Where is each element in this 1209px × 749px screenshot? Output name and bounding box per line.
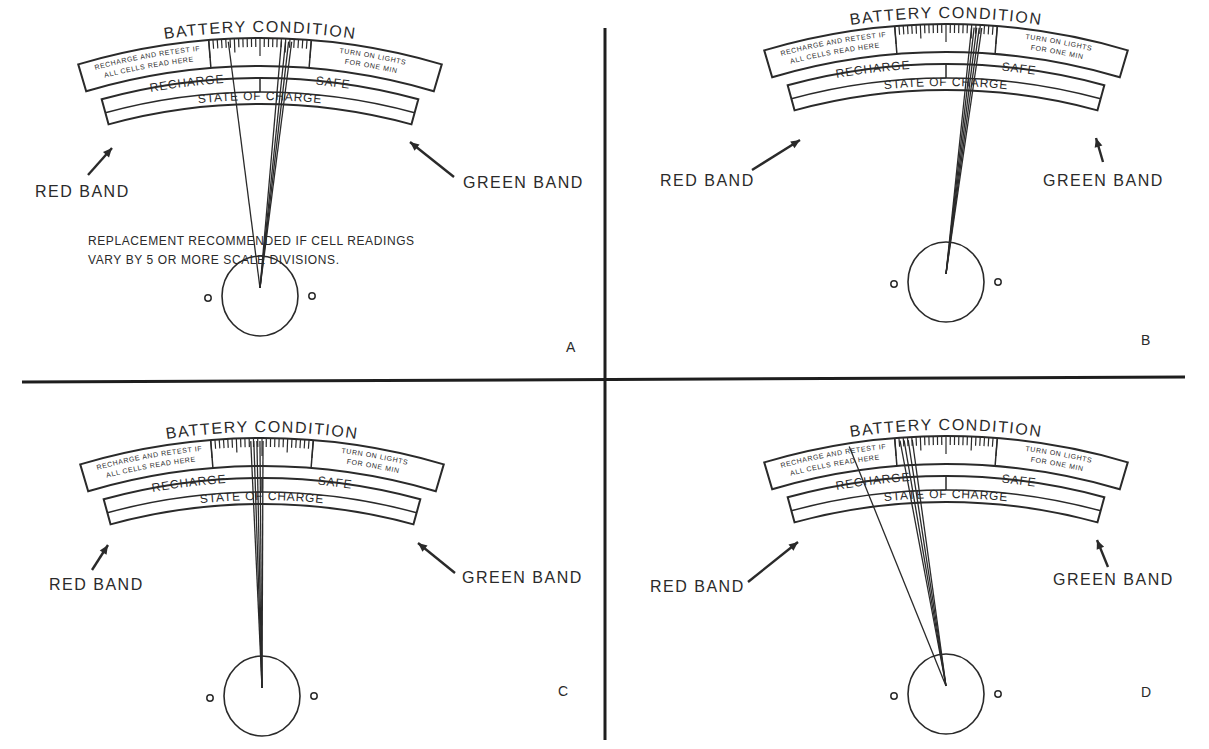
red-band-label: RED BAND — [660, 172, 755, 189]
panel-d: BATTERY CONDITIONRECHARGE AND RETEST IFA… — [650, 416, 1174, 734]
pivot-housing — [908, 242, 984, 322]
green-band-label: GREEN BAND — [1053, 571, 1174, 588]
replacement-note-line2: VARY BY 5 OR MORE SCALE DIVISIONS. — [88, 253, 340, 267]
scale-ticks — [211, 438, 314, 458]
panel-letter: C — [558, 683, 568, 699]
figure: BATTERY CONDITIONRECHARGE AND RETEST IFA… — [0, 0, 1209, 749]
mounting-screw-left — [205, 295, 211, 301]
safe-label: SAFE — [1001, 472, 1037, 490]
battery-gauge: BATTERY CONDITIONRECHARGE AND RETEST IFA… — [78, 18, 442, 336]
safe-label: SAFE — [315, 74, 351, 92]
red-band-label: RED BAND — [35, 183, 130, 200]
figure-canvas: BATTERY CONDITIONRECHARGE AND RETEST IFA… — [0, 0, 1209, 749]
mounting-screw-left — [891, 693, 897, 699]
pivot-housing — [908, 654, 984, 734]
scale-ticks — [209, 38, 312, 58]
replacement-note-line1: REPLACEMENT RECOMMENDED IF CELL READINGS — [88, 234, 415, 248]
panel-letter: D — [1141, 684, 1151, 700]
green-band-label: GREEN BAND — [463, 174, 584, 191]
mounting-screw-left — [207, 695, 213, 701]
panel-a: BATTERY CONDITIONRECHARGE AND RETEST IFA… — [35, 18, 584, 355]
mounting-screw-right — [995, 279, 1001, 285]
pivot-housing — [222, 256, 298, 336]
battery-gauge: BATTERY CONDITIONRECHARGE AND RETEST IFA… — [764, 4, 1128, 322]
mounting-screw-right — [309, 293, 315, 299]
panel-letter: A — [566, 339, 576, 355]
safe-label: SAFE — [317, 474, 353, 492]
red-band-label: RED BAND — [49, 576, 144, 593]
mounting-screw-right — [311, 693, 317, 699]
green-band-label: GREEN BAND — [462, 569, 583, 586]
red-band-label: RED BAND — [650, 578, 745, 595]
green-band-label: GREEN BAND — [1043, 172, 1164, 189]
panel-c: BATTERY CONDITIONRECHARGE AND RETEST IFA… — [49, 418, 583, 736]
safe-label: SAFE — [1001, 60, 1037, 78]
mounting-screw-left — [891, 281, 897, 287]
scale-ticks — [895, 24, 998, 44]
panel-b: BATTERY CONDITIONRECHARGE AND RETEST IFA… — [660, 4, 1164, 348]
red-band-arrow — [748, 542, 798, 582]
panel-letter: B — [1141, 332, 1150, 348]
mounting-screw-right — [995, 691, 1001, 697]
